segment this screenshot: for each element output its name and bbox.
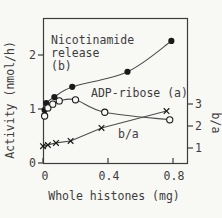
x-axis-label: Whole histones (mg) bbox=[48, 189, 180, 203]
label-series-b: (b) bbox=[51, 59, 72, 73]
bottom-tick-label: 0.4 bbox=[99, 169, 120, 183]
data-point-open-circle bbox=[167, 117, 173, 123]
figure-container: 01212300.40.8 Nicotinamiderelease(b)ADP-… bbox=[0, 0, 222, 218]
label-series-b: Nicotinamide bbox=[51, 33, 134, 47]
series-line bbox=[45, 99, 170, 120]
data-point-filled-circle bbox=[168, 38, 174, 44]
data-point-open-circle bbox=[42, 113, 48, 119]
label-series-b: release bbox=[51, 46, 100, 60]
data-point-open-circle bbox=[50, 101, 56, 107]
y-axis-label-left: Activity (nmol/h) bbox=[3, 41, 17, 159]
y-axis-label-right: b/a bbox=[209, 113, 222, 134]
bottom-tick-label: 0 bbox=[42, 169, 49, 183]
label-series-a: ADP-ribose (a) bbox=[91, 86, 188, 100]
scatter-chart: 01212300.40.8 Nicotinamiderelease(b)ADP-… bbox=[0, 0, 222, 218]
data-point-open-circle bbox=[72, 97, 78, 103]
left-tick-label: 0 bbox=[29, 156, 36, 170]
bottom-tick-label: 0.8 bbox=[164, 169, 185, 183]
right-tick-label: 1 bbox=[195, 141, 202, 155]
data-point-open-circle bbox=[56, 98, 62, 104]
series-line bbox=[43, 111, 167, 146]
data-point-open-circle bbox=[102, 109, 108, 115]
data-point-filled-circle bbox=[124, 69, 130, 75]
right-tick-label: 3 bbox=[195, 97, 202, 111]
right-tick-label: 2 bbox=[195, 119, 202, 133]
label-series-ba: b/a bbox=[118, 127, 139, 141]
data-point-filled-circle bbox=[69, 84, 75, 90]
left-tick-label: 2 bbox=[29, 48, 36, 62]
left-tick-label: 1 bbox=[29, 102, 36, 116]
